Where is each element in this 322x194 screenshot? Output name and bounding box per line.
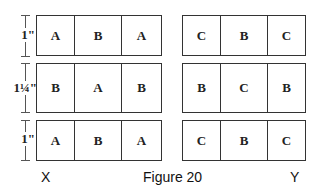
block-x-cell: A — [122, 121, 161, 160]
block-y-cell: C — [183, 16, 221, 55]
block-x-cell: B — [75, 121, 122, 160]
block-y-row-3: C B C — [182, 120, 306, 161]
label-y: Y — [290, 169, 299, 185]
dimension-marker-row-2: 1¼" — [17, 61, 35, 114]
dimension-marker-row-1: 1" — [17, 13, 35, 58]
block-y-cell: C — [221, 64, 268, 112]
block-x-cell: B — [122, 64, 161, 112]
dimension-label-row-3: 1" — [21, 132, 35, 146]
block-y-cell: B — [268, 64, 305, 112]
block-y-row-2: B C B — [182, 63, 306, 113]
block-x-cell: A — [37, 121, 75, 160]
dimension-label-row-2: 1¼" — [14, 81, 37, 95]
block-x-row-2: B A B — [36, 63, 162, 113]
block-y-cell: C — [268, 16, 305, 55]
block-x-cell: B — [75, 16, 122, 55]
block-x-cell: A — [37, 16, 75, 55]
block-y-cell: C — [183, 121, 221, 160]
block-x-cell: B — [37, 64, 75, 112]
block-x-cell: A — [122, 16, 161, 55]
block-y-cell: B — [221, 121, 268, 160]
block-y-cell: C — [268, 121, 305, 160]
block-x-cell: A — [75, 64, 122, 112]
dimension-label-row-1: 1" — [21, 28, 35, 42]
figure-caption: Figure 20 — [143, 169, 202, 185]
block-y-cell: B — [221, 16, 268, 55]
block-x-row-3: A B A — [36, 120, 162, 161]
block-y-row-1: C B C — [182, 15, 306, 56]
block-x-row-1: A B A — [36, 15, 162, 56]
label-x: X — [41, 169, 50, 185]
dimension-marker-row-3: 1" — [17, 118, 35, 162]
block-y-cell: B — [183, 64, 221, 112]
